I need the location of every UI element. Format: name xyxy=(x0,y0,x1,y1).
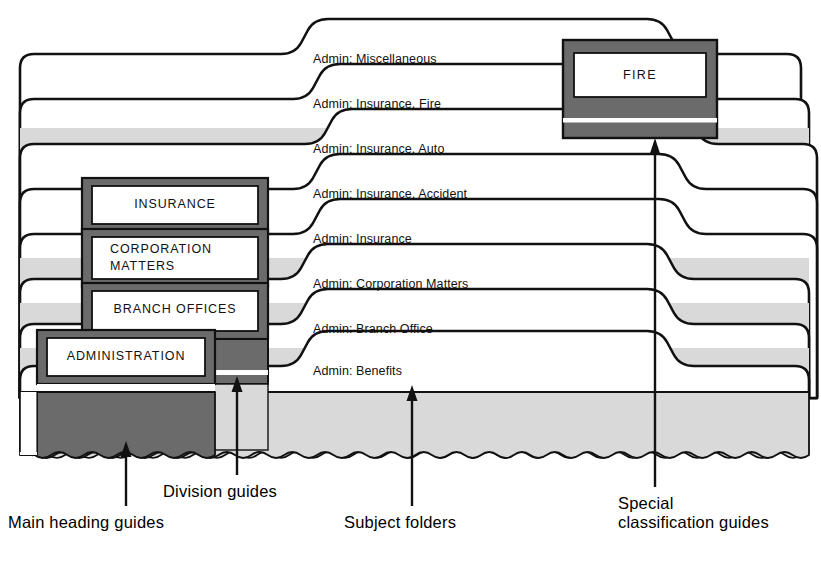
division-guide-label-corporation-matters-line2: MATTERS xyxy=(92,258,258,275)
division-guide-label-corporation-matters-line1: CORPORATION xyxy=(92,241,258,258)
drawer-left-edge xyxy=(20,392,37,455)
caption-main-heading-guides: Main heading guides xyxy=(8,513,164,532)
division-guide-label-branch-offices: BRANCH OFFICES xyxy=(92,302,258,316)
subject-folder-label: Admin: Insurance, Accident xyxy=(313,187,467,201)
main-heading-guide-label: ADMINISTRATION xyxy=(47,349,205,363)
caption-special-classification-line1: Special xyxy=(618,494,674,513)
subject-folder-label: Admin: Insurance, Auto xyxy=(313,142,444,156)
caption-special-classification-line2: classification guides xyxy=(618,513,769,532)
special-classification-guide-label: FIRE xyxy=(574,68,706,82)
subject-folder-label: Admin: Miscellaneous xyxy=(313,52,437,66)
subject-folder-label: Admin: Branch Office xyxy=(313,322,433,336)
filing-system-diagram: Admin: Miscellaneous Admin: Insurance, F… xyxy=(0,0,821,566)
caption-division-guides: Division guides xyxy=(163,482,277,501)
subject-folder-label: Admin: Insurance, Fire xyxy=(313,97,441,111)
special-classification-guide-fire[interactable] xyxy=(563,40,717,138)
subject-folder-label: Admin: Corporation Matters xyxy=(313,277,468,291)
caption-subject-folders: Subject folders xyxy=(344,513,456,532)
subject-folder-label: Admin: Benefits xyxy=(313,364,402,378)
division-guide-label-insurance: INSURANCE xyxy=(92,197,258,211)
subject-folder-label: Admin: Insurance xyxy=(313,232,412,246)
